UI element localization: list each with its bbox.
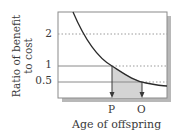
y-tick-05: 0.5 — [32, 75, 52, 86]
y-tick-2: 2 — [32, 28, 52, 39]
x-tick-o: O — [137, 104, 146, 115]
y-tick-1: 1 — [32, 59, 52, 70]
x-tick-p: P — [108, 104, 115, 115]
y-axis-label-line1: Ratio of benefit — [10, 15, 22, 97]
plot-shadow-right — [167, 16, 171, 102]
plot-shadow-bottom — [62, 98, 171, 102]
y-axis-label: Ratio of benefit to cost — [6, 12, 38, 100]
x-axis-label: Age of offspring — [72, 118, 161, 131]
